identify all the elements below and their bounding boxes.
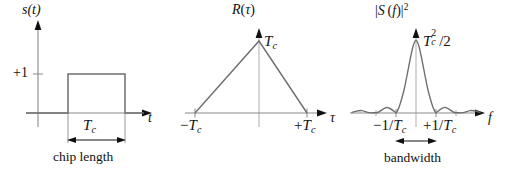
y-axis-label-s-f-squared: |S (f)|2: [375, 3, 408, 18]
x-axis-label-tau: τ: [330, 111, 335, 125]
x-axis-label-t: t: [148, 111, 152, 125]
axis-label-minus-tc: −Tc: [180, 118, 202, 135]
y-axis-label-st: s(t): [22, 3, 41, 17]
panel-time-domain: s(t) +1 t Tc chip length: [0, 0, 170, 171]
duration-label-tc: Tc: [83, 118, 96, 135]
power-spectrum-plot: [340, 0, 506, 171]
axis-label-minus-one-over-tc: −1/Tc: [373, 118, 406, 135]
y-axis-label-r-tau: R(τ): [232, 3, 255, 17]
axis-label-plus-tc: +Tc: [294, 118, 316, 135]
peak-label-tc-squared-over-two: T2c/2: [423, 31, 451, 49]
autocorrelation-plot: [170, 0, 340, 171]
caption-chip-length: chip length: [53, 149, 113, 165]
caption-bandwidth: bandwidth: [384, 150, 441, 166]
chip-pulse-curve: [26, 74, 144, 113]
panel-autocorrelation: R(τ) Tc −Tc +Tc τ: [170, 0, 340, 171]
peak-label-tc: Tc: [264, 34, 277, 51]
panel-power-spectrum: |S (f)|2 T2c/2 −1/Tc +1/Tc f bandwidth: [340, 0, 506, 171]
axis-label-plus-one-over-tc: +1/Tc: [423, 118, 456, 135]
triangular-autocorrelation-curve: [195, 41, 307, 113]
chip-length-dimension-arrow: [67, 137, 126, 143]
time-domain-plot: [0, 0, 170, 171]
figure-container: s(t) +1 t Tc chip length: [0, 0, 506, 171]
x-axis-label-f: f: [488, 111, 492, 125]
bandwidth-dimension-arrow: [395, 138, 437, 144]
amplitude-label-plus-one: +1: [13, 66, 28, 80]
